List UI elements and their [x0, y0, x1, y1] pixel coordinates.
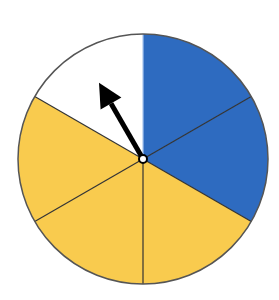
spinner-diagram — [0, 0, 279, 300]
spinner-hub — [139, 155, 147, 163]
